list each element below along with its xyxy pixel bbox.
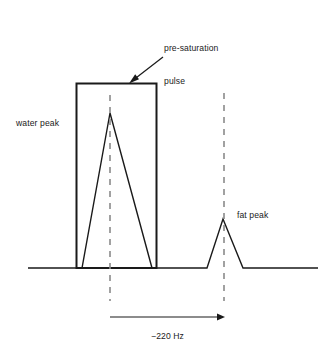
mri-presaturation-diagram: pre-saturation pulse water peak fat peak… <box>0 0 336 359</box>
water-peak-label: water peak <box>16 118 59 129</box>
presaturation-pulse-label-line2: pulse <box>164 76 218 87</box>
frequency-shift-arrow-icon <box>110 314 225 321</box>
presaturation-pulse-label: pre-saturation pulse <box>164 21 218 109</box>
presaturation-arrow-icon <box>129 57 163 84</box>
frequency-shift-label: −220 Hz <box>0 331 336 342</box>
frequency-shift-value: −220 Hz <box>151 331 184 342</box>
presaturation-pulse-label-line1: pre-saturation <box>164 43 218 54</box>
spectrum-trace <box>28 113 318 268</box>
fat-peak-label: fat peak <box>237 210 268 221</box>
